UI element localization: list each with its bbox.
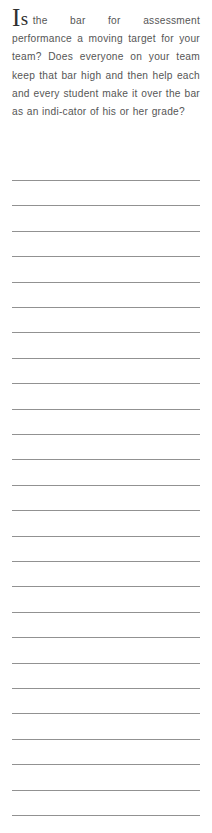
writing-line[interactable] xyxy=(12,332,200,333)
writing-line[interactable] xyxy=(12,434,200,435)
writing-line[interactable] xyxy=(12,282,200,283)
writing-line[interactable] xyxy=(12,612,200,613)
prompt-body-text: the bar for assessment performance a mov… xyxy=(12,15,200,117)
writing-line[interactable] xyxy=(12,637,200,638)
writing-line[interactable] xyxy=(12,485,200,486)
writing-line[interactable] xyxy=(12,739,200,740)
writing-line[interactable] xyxy=(12,561,200,562)
writing-line[interactable] xyxy=(12,510,200,511)
prompt-paragraph: Isthe bar for assessment performance a m… xyxy=(12,12,200,121)
writing-line[interactable] xyxy=(12,205,200,206)
prompt-block: Isthe bar for assessment performance a m… xyxy=(12,12,200,121)
writing-line[interactable] xyxy=(12,409,200,410)
writing-line[interactable] xyxy=(12,256,200,257)
writing-line[interactable] xyxy=(12,663,200,664)
writing-line[interactable] xyxy=(12,536,200,537)
writing-line[interactable] xyxy=(12,815,200,816)
drop-cap-major-letter: I xyxy=(12,4,21,31)
writing-line[interactable] xyxy=(12,713,200,714)
writing-line[interactable] xyxy=(12,459,200,460)
response-writing-lines xyxy=(0,168,212,833)
writing-line[interactable] xyxy=(12,231,200,232)
writing-line[interactable] xyxy=(12,586,200,587)
drop-cap: Is xyxy=(12,15,29,26)
writing-line[interactable] xyxy=(12,307,200,308)
writing-line[interactable] xyxy=(12,358,200,359)
drop-cap-minor-letter: s xyxy=(21,8,29,29)
writing-line[interactable] xyxy=(12,180,200,181)
writing-line[interactable] xyxy=(12,383,200,384)
writing-line[interactable] xyxy=(12,764,200,765)
worksheet-page: Isthe bar for assessment performance a m… xyxy=(0,0,212,833)
writing-line[interactable] xyxy=(12,790,200,791)
writing-line[interactable] xyxy=(12,688,200,689)
